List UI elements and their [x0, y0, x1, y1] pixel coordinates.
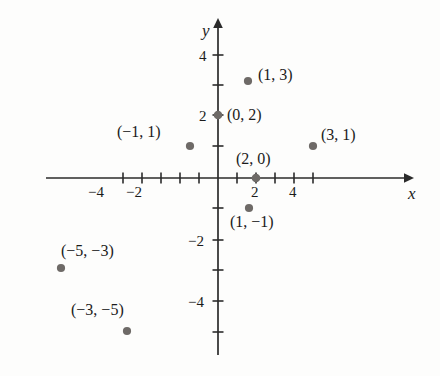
point-label-1-3: (1, 3) [258, 67, 293, 83]
data-point [252, 174, 261, 183]
x-axis-label: x [408, 185, 416, 202]
data-point [214, 111, 223, 120]
data-point [186, 142, 194, 150]
point-label-neg5-neg3: (−5, −3) [61, 243, 114, 259]
y-axis-arrowhead [213, 18, 223, 28]
y-tick-label: 4 [199, 49, 207, 64]
x-tick-label: −2 [126, 185, 142, 200]
data-point [309, 142, 317, 150]
point-label-3-1: (3, 1) [321, 127, 356, 143]
x-tick-label: 4 [289, 185, 297, 200]
data-point [244, 77, 252, 85]
point-label-neg1-1: (−1, 1) [117, 124, 161, 140]
point-label-0-2: (0, 2) [227, 107, 262, 123]
data-point [123, 327, 131, 335]
data-point [57, 264, 65, 272]
y-tick-label: −4 [188, 295, 204, 310]
y-axis-label: y [202, 22, 210, 39]
coordinate-plane-svg [0, 0, 440, 376]
x-tick-label: −4 [88, 185, 104, 200]
coordinate-plane-figure: y x −4 −2 2 4 4 2 −2 −4 (1, 3) (0, 2) (−… [0, 0, 440, 376]
x-axis-group [46, 173, 414, 183]
x-axis-arrowhead [404, 173, 414, 183]
point-label-neg3-neg5: (−3, −5) [71, 302, 124, 318]
y-tick-label: 2 [199, 109, 207, 124]
point-label-2-0: (2, 0) [236, 151, 271, 167]
x-tick-label: 2 [251, 185, 259, 200]
y-tick-label: −2 [188, 234, 204, 249]
y-axis-group [213, 18, 223, 355]
data-points [57, 77, 317, 335]
point-label-1-neg1: (1, −1) [230, 214, 274, 230]
data-point [245, 204, 253, 212]
